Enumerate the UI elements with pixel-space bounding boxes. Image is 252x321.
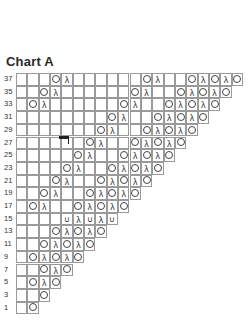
row-number: 7 (4, 264, 15, 277)
knit-cell (39, 149, 50, 162)
yarn-over-icon (175, 111, 186, 124)
knit-cell (130, 124, 141, 137)
decrease-icon: λ (50, 264, 61, 277)
decrease-icon: λ (186, 111, 197, 124)
knit-cell (164, 86, 175, 99)
decrease-icon: λ (61, 73, 72, 86)
yarn-over-icon (118, 149, 129, 162)
decrease-icon: λ (209, 86, 220, 99)
decrease-icon: λ (220, 73, 231, 86)
knit-cell (61, 200, 72, 213)
decrease-icon: λ (61, 175, 72, 188)
row-number: 31 (4, 111, 15, 124)
row-number: 27 (4, 137, 15, 150)
knit-cell (84, 73, 95, 86)
yarn-over-icon (175, 86, 186, 99)
yarn-over-icon (141, 73, 152, 86)
knit-cell (130, 73, 141, 86)
decrease-icon: λ (39, 251, 50, 264)
knit-cell (61, 98, 72, 111)
yarn-over-icon (164, 149, 175, 162)
knit-cell (130, 111, 141, 124)
row-number: 3 (4, 289, 15, 302)
knit-cell (141, 111, 152, 124)
yarn-over-icon (209, 98, 220, 111)
knit-cell (16, 175, 27, 188)
knit-cell (84, 98, 95, 111)
decrease-icon: λ (130, 149, 141, 162)
yarn-over-icon (130, 137, 141, 150)
knit-cell (27, 162, 38, 175)
row-number: 17 (4, 200, 15, 213)
knit-cell (141, 98, 152, 111)
knit-cell (95, 149, 106, 162)
yarn-over-icon (39, 187, 50, 200)
yarn-over-icon (39, 238, 50, 251)
yarn-over-icon (61, 238, 72, 251)
purl-icon: ∪ (107, 213, 118, 226)
knit-cell (50, 111, 61, 124)
knit-cell (95, 111, 106, 124)
decrease-icon: λ (39, 98, 50, 111)
yarn-over-icon (186, 98, 197, 111)
yarn-over-icon (27, 302, 38, 315)
knit-cell (16, 187, 27, 200)
knit-cell (73, 98, 84, 111)
yarn-over-icon (118, 200, 129, 213)
row-number: 19 (4, 187, 15, 200)
yarn-over-icon (141, 149, 152, 162)
decrease-icon: λ (84, 149, 95, 162)
row-number: 29 (4, 124, 15, 137)
knit-cell (16, 124, 27, 137)
row-number: 9 (4, 251, 15, 264)
yarn-over-icon (73, 200, 84, 213)
knit-cell (73, 86, 84, 99)
knit-cell (16, 276, 27, 289)
decrease-icon: λ (130, 175, 141, 188)
knit-cell (16, 213, 27, 226)
knit-cell (16, 302, 27, 315)
knit-cell (107, 149, 118, 162)
knit-cell (84, 162, 95, 175)
row-number: 13 (4, 225, 15, 238)
decrease-icon: λ (198, 73, 209, 86)
yarn-over-icon (50, 276, 61, 289)
knit-cell (16, 289, 27, 302)
decrease-icon: λ (118, 162, 129, 175)
knit-cell (27, 149, 38, 162)
knit-cell (164, 73, 175, 86)
knit-cell (39, 225, 50, 238)
yarn-over-icon (130, 86, 141, 99)
knit-cell (50, 213, 61, 226)
yarn-over-icon (164, 124, 175, 137)
knit-cell (73, 111, 84, 124)
decrease-icon: λ (186, 86, 197, 99)
knit-cell (16, 251, 27, 264)
decrease-icon: λ (141, 162, 152, 175)
row-number: 15 (4, 213, 15, 226)
yarn-over-icon (152, 137, 163, 150)
knit-cell (16, 238, 27, 251)
knit-cell (73, 124, 84, 137)
yarn-over-icon (152, 111, 163, 124)
yarn-over-icon (107, 162, 118, 175)
knit-cell (50, 149, 61, 162)
knit-cell (95, 162, 106, 175)
knit-cell (16, 264, 27, 277)
knit-cell (39, 124, 50, 137)
knit-cell (61, 187, 72, 200)
knit-cell (27, 264, 38, 277)
knit-cell (27, 175, 38, 188)
row-number: 5 (4, 276, 15, 289)
knit-cell (61, 111, 72, 124)
knit-cell (39, 213, 50, 226)
knit-cell (118, 124, 129, 137)
yarn-over-icon (61, 264, 72, 277)
knit-cell (16, 225, 27, 238)
row-number: 1 (4, 302, 15, 315)
purl-icon: ∪ (84, 213, 95, 226)
yarn-over-icon (141, 175, 152, 188)
decrease-icon: λ (175, 124, 186, 137)
yarn-over-icon (50, 225, 61, 238)
yarn-over-icon (73, 251, 84, 264)
